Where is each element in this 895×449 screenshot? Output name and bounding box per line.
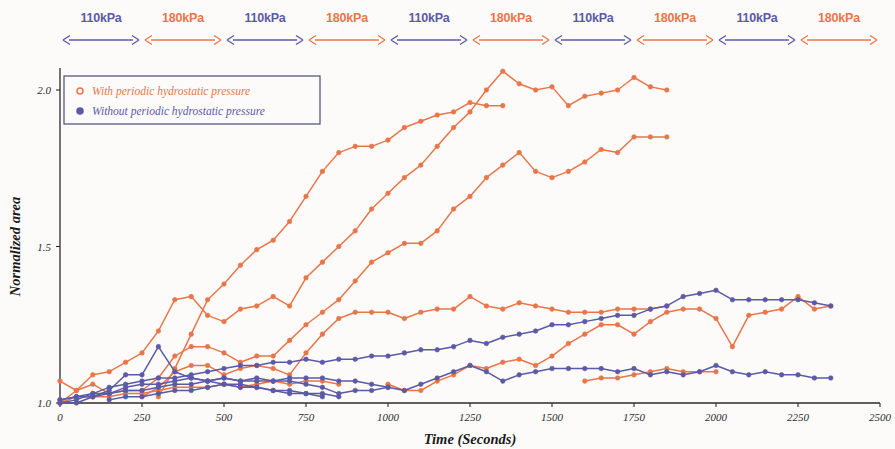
series-data-point	[648, 319, 653, 324]
series-data-point	[419, 388, 424, 393]
series-data-point	[484, 175, 489, 180]
series-data-point	[812, 307, 817, 312]
series-data-point	[222, 366, 227, 371]
x-axis-title: Time (Seconds)	[424, 431, 517, 448]
series-data-point	[91, 373, 96, 378]
series-data-point	[501, 163, 506, 168]
series-data-point	[320, 260, 325, 265]
series-data-point	[583, 379, 588, 384]
series-data-point	[632, 373, 637, 378]
series-data-point	[566, 322, 571, 327]
series-data-point	[566, 169, 571, 174]
series-data-point	[320, 360, 325, 365]
series-data-point	[599, 310, 604, 315]
series-data-point	[501, 379, 506, 384]
series-data-point	[730, 344, 735, 349]
series-data-point	[173, 379, 178, 384]
series-data-point	[550, 175, 555, 180]
x-tick-label: 1000	[377, 411, 400, 423]
series-data-point	[320, 332, 325, 337]
series-data-point	[484, 369, 489, 374]
series-data-point	[337, 379, 342, 384]
series-data-point	[599, 322, 604, 327]
series-data-point	[304, 351, 309, 356]
series-data-point	[419, 119, 424, 124]
series-data-point	[337, 297, 342, 302]
series-data-point	[353, 388, 358, 393]
series-data-point	[58, 398, 63, 403]
series-data-point	[222, 351, 227, 356]
series-data-point	[173, 297, 178, 302]
series-data-point	[271, 379, 276, 384]
series-data-point	[156, 391, 161, 396]
series-data-point	[681, 307, 686, 312]
series-data-point	[91, 391, 96, 396]
series-data-point	[386, 250, 391, 255]
series-data-point	[599, 376, 604, 381]
series-data-point	[271, 238, 276, 243]
series-data-point	[517, 373, 522, 378]
series-data-point	[271, 388, 276, 393]
series-data-point	[812, 376, 817, 381]
series-data-point	[386, 385, 391, 390]
series-data-point	[796, 373, 801, 378]
series-data-point	[583, 319, 588, 324]
series-data-point	[337, 357, 342, 362]
series-data-point	[156, 344, 161, 349]
series-data-point	[763, 369, 768, 374]
series-data-point	[435, 347, 440, 352]
x-tick-label: 1250	[459, 411, 482, 423]
series-data-point	[402, 175, 407, 180]
band-pressure-label: 180kPa	[818, 11, 861, 25]
series-data-point	[287, 388, 292, 393]
series-data-point	[353, 379, 358, 384]
band-pressure-label: 110kPa	[408, 11, 450, 25]
band-pressure-label: 110kPa	[572, 11, 614, 25]
series-data-point	[566, 366, 571, 371]
series-data-point	[779, 297, 784, 302]
series-data-point	[566, 103, 571, 108]
series-data-point	[435, 376, 440, 381]
series-data-point	[501, 360, 506, 365]
series-data-point	[533, 88, 538, 93]
x-tick-label: 2500	[869, 411, 892, 423]
series-data-point	[91, 382, 96, 387]
series-data-point	[829, 376, 834, 381]
series-data-point	[123, 394, 128, 399]
series-data-point	[337, 316, 342, 321]
series-data-point	[369, 260, 374, 265]
series-data-point	[435, 113, 440, 118]
series-data-point	[254, 304, 259, 309]
series-data-point	[369, 310, 374, 315]
series-data-point	[353, 310, 358, 315]
series-data-point	[320, 169, 325, 174]
legend-marker-icon	[77, 108, 83, 114]
series-data-point	[140, 388, 145, 393]
series-data-point	[254, 354, 259, 359]
series-data-point	[533, 169, 538, 174]
series-data-point	[648, 85, 653, 90]
series-data-point	[665, 304, 670, 309]
series-data-point	[632, 313, 637, 318]
chart-background	[0, 0, 895, 449]
legend-item: Without periodic hydrostatic pressure	[77, 105, 265, 118]
series-data-point	[140, 394, 145, 399]
series-data-point	[123, 360, 128, 365]
series-data-point	[599, 316, 604, 321]
x-tick-label: 1750	[623, 411, 646, 423]
band-pressure-label: 180kPa	[490, 11, 533, 25]
series-data-point	[304, 322, 309, 327]
series-data-point	[468, 194, 473, 199]
series-data-point	[402, 388, 407, 393]
series-data-point	[156, 376, 161, 381]
series-data-point	[123, 385, 128, 390]
series-data-point	[615, 313, 620, 318]
series-data-point	[632, 332, 637, 337]
series-data-point	[173, 369, 178, 374]
series-data-point	[501, 103, 506, 108]
series-data-point	[550, 85, 555, 90]
series-data-point	[665, 135, 670, 140]
series-data-point	[287, 360, 292, 365]
series-data-point	[222, 376, 227, 381]
series-data-point	[369, 382, 374, 387]
